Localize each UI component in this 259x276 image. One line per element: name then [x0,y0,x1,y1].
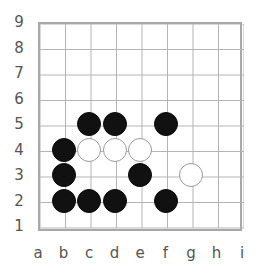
stone-black-b2[interactable] [52,189,76,213]
stone-black-f2[interactable] [154,189,178,213]
stone-white-g3[interactable] [179,163,203,187]
rank-label-1: 1 [8,219,30,234]
stone-black-d5[interactable] [103,112,127,136]
stone-black-b4[interactable] [52,138,76,162]
stone-black-c2[interactable] [77,189,101,213]
rank-label-7: 7 [8,66,30,81]
stone-black-f5[interactable] [154,112,178,136]
file-label-d: d [103,246,127,261]
file-label-h: h [205,246,229,261]
file-label-a: a [26,246,50,261]
stone-white-c4[interactable] [77,138,101,162]
stone-black-d2[interactable] [103,189,127,213]
rank-label-8: 8 [8,41,30,56]
stone-black-b3[interactable] [52,163,76,187]
stone-black-c5[interactable] [77,112,101,136]
stone-black-e3[interactable] [128,163,152,187]
file-label-c: c [77,246,101,261]
rank-label-3: 3 [8,168,30,183]
rank-label-9: 9 [8,15,30,30]
go-board-figure: 987654321 abcdefghi [0,0,259,276]
file-label-f: f [154,246,178,261]
rank-label-6: 6 [8,92,30,107]
rank-label-4: 4 [8,143,30,158]
stone-white-d4[interactable] [103,138,127,162]
file-label-b: b [52,246,76,261]
rank-label-2: 2 [8,194,30,209]
rank-label-5: 5 [8,117,30,132]
file-label-i: i [230,246,254,261]
file-label-g: g [179,246,203,261]
file-label-e: e [128,246,152,261]
stone-white-e4[interactable] [128,138,152,162]
